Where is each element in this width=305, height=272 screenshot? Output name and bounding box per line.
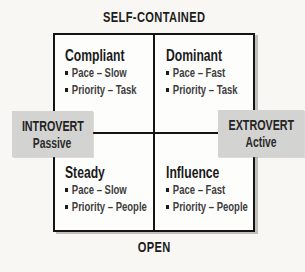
quadrant-bullet: Pace – Fast (166, 182, 265, 199)
quadrant-compliant: Compliant Pace – Slow Priority – Task (65, 46, 164, 99)
bullet-square-icon (65, 188, 68, 192)
introvert-label: INTROVERT (11, 118, 95, 135)
quadrant-title: Dominant (166, 46, 265, 65)
passive-label: Passive (26, 135, 78, 151)
extrovert-label: EXTROVERT (217, 117, 305, 134)
quadrant-bullet: Pace – Slow (65, 65, 164, 82)
quadrant-dominant: Dominant Pace – Fast Priority – Task (166, 46, 265, 99)
quadrant-influence: Influence Pace – Fast Priority – People (166, 163, 265, 216)
bullet-square-icon (166, 71, 169, 75)
quadrant-title: Steady (65, 163, 164, 182)
quadrant-title: Compliant (65, 46, 164, 65)
top-axis-text: SELF-CONTAINED (103, 8, 205, 25)
extrovert-box: EXTROVERT Active (218, 110, 304, 157)
quadrant-bullet: Pace – Slow (65, 182, 164, 199)
quadrant-bullet: Priority – Task (166, 82, 265, 99)
quadrant-bullet: Priority – People (166, 199, 265, 216)
bottom-axis-label: OPEN (53, 238, 255, 255)
quadrant-bullet: Priority – People (65, 199, 164, 216)
quadrant-steady: Steady Pace – Slow Priority – People (65, 163, 164, 216)
active-label: Active (240, 134, 282, 150)
bottom-axis-text: OPEN (138, 238, 171, 255)
introvert-box: INTROVERT Passive (12, 111, 93, 157)
bullet-square-icon (166, 88, 169, 92)
bullet-square-icon (65, 205, 68, 209)
quadrant-bullet: Priority – Task (65, 82, 164, 99)
quadrant-bullet: Pace – Fast (166, 65, 265, 82)
bullet-square-icon (166, 205, 169, 209)
bullet-square-icon (65, 88, 68, 92)
bullet-square-icon (166, 188, 169, 192)
quadrant-title: Influence (166, 163, 265, 182)
disc-matrix-diagram: SELF-CONTAINED Compliant Pace – Slow Pri… (0, 0, 305, 272)
top-axis-label: SELF-CONTAINED (53, 8, 255, 25)
bullet-square-icon (65, 71, 68, 75)
